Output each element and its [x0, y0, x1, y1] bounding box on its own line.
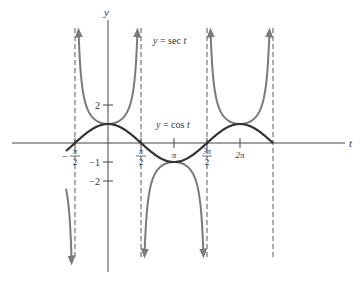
y-tick-label: 2	[95, 100, 100, 111]
curves	[66, 32, 273, 260]
x-tick-denominator: 2	[139, 157, 144, 167]
sec-branch	[145, 162, 204, 254]
x-tick-numerator: 3π	[202, 147, 212, 156]
y-tick-label: −1	[89, 157, 100, 168]
x-tick-sign: −	[62, 151, 68, 162]
x-tick-denominator: 2	[205, 157, 210, 167]
sec-branch	[211, 32, 270, 124]
x-tick-denominator: 2	[73, 157, 78, 167]
chart: π2−π2π3π22π2−1−2 y t y = sec t y = cos t	[0, 0, 363, 283]
x-tick-label: 2π	[235, 150, 245, 160]
y-tick-label: −2	[89, 176, 100, 187]
x-tick-label: π	[172, 150, 177, 160]
t-axis-label: t	[349, 137, 353, 149]
x-tick-numerator: π	[139, 147, 144, 156]
x-tick-numerator: π	[73, 147, 78, 156]
axes	[12, 20, 345, 272]
sec-branch-partial	[66, 189, 72, 261]
sec-label: y = sec t	[152, 35, 186, 46]
y-axis-label: y	[103, 6, 109, 18]
cos-label: y = cos t	[155, 119, 190, 130]
